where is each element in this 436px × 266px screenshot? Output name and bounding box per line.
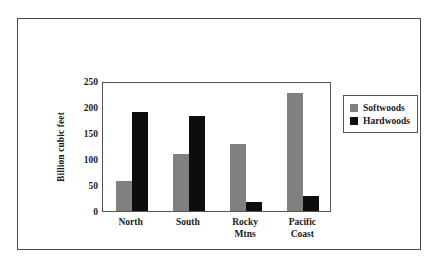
y-axis-tick-label: 150 — [70, 129, 98, 139]
y-axis-title: Billion cubic feet — [54, 85, 68, 209]
y-axis-tick-labels: 050100150200250 — [70, 77, 98, 217]
bar-softwoods-south — [173, 154, 189, 211]
x-axis-tick-label: PacificCoast — [267, 217, 337, 240]
bar-softwoods-pacific-coast — [287, 93, 303, 211]
y-axis-tick-label: 250 — [70, 77, 98, 87]
bar-group — [116, 83, 148, 211]
y-axis-tick-label: 100 — [70, 155, 98, 165]
legend-swatch-icon — [350, 117, 358, 125]
bar-group — [287, 83, 319, 211]
y-axis-tick-label: 50 — [70, 181, 98, 191]
bars-layer — [103, 83, 330, 211]
chart-legend: SoftwoodsHardwoods — [343, 95, 418, 133]
chart-figure: Billion cubic feet 050100150200250 North… — [17, 18, 421, 250]
bar-hardwoods-pacific-coast — [303, 196, 319, 211]
y-axis-title-text: Billion cubic feet — [56, 112, 66, 182]
x-axis-tick-label-line: South — [176, 217, 200, 227]
bar-hardwoods-rocky-mtns — [246, 202, 262, 211]
x-axis-tick-label-line: Coast — [267, 229, 337, 241]
legend-label: Softwoods — [363, 103, 405, 113]
plot-area — [102, 82, 331, 212]
bar-group — [230, 83, 262, 211]
x-axis-tick-label-line: Pacific — [289, 217, 316, 227]
legend-swatch-icon — [350, 104, 358, 112]
x-axis-tick-label-line: North — [118, 217, 142, 227]
legend-item-hardwoods: Hardwoods — [350, 114, 410, 127]
bar-softwoods-north — [116, 181, 132, 211]
bar-hardwoods-north — [132, 112, 148, 211]
x-axis-tick-labels: NorthSouthRockyMtnsPacificCoast — [102, 217, 331, 257]
x-axis-tick-label-line: Rocky — [232, 217, 258, 227]
legend-item-softwoods: Softwoods — [350, 101, 410, 114]
y-axis-tick-label: 200 — [70, 103, 98, 113]
bar-softwoods-rocky-mtns — [230, 144, 246, 211]
y-axis-tick-label: 0 — [70, 207, 98, 217]
bar-hardwoods-south — [189, 116, 205, 211]
bar-group — [173, 83, 205, 211]
legend-label: Hardwoods — [363, 116, 410, 126]
